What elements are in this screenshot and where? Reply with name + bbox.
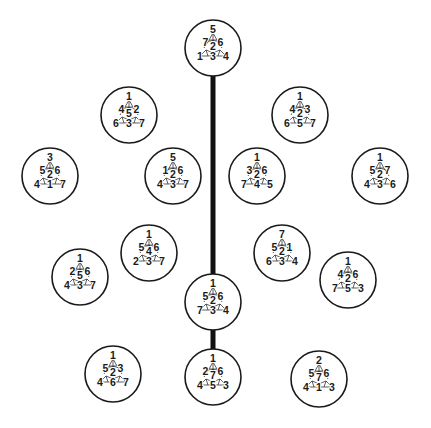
- label-top: 1: [210, 277, 216, 289]
- label-top: 1: [126, 90, 132, 102]
- label-bottom-center: 3: [170, 178, 176, 190]
- label-bottom-left: 4: [303, 381, 309, 393]
- label-mid-left: 4: [290, 103, 296, 115]
- label-mid-right: 6: [178, 164, 184, 176]
- label-mid-right: 6: [55, 164, 61, 176]
- label-top: 3: [47, 151, 53, 163]
- label-bottom-right: 7: [123, 376, 129, 388]
- label-bottom-center: 3: [146, 255, 152, 267]
- label-bottom-right: 4: [223, 50, 229, 62]
- label-mid-right: 2: [134, 103, 140, 115]
- label-bottom-center: 3: [210, 304, 216, 316]
- label-bottom-left: 4: [157, 178, 163, 190]
- label-mid-right: 6: [218, 365, 224, 377]
- fano-node: 3562417: [22, 148, 78, 204]
- label-bottom-center: 4: [254, 178, 260, 190]
- label-mid-right: 6: [154, 241, 160, 253]
- label-bottom-left: 7: [332, 282, 338, 294]
- label-bottom-right: 7: [183, 178, 189, 190]
- label-mid-right: 6: [218, 290, 224, 302]
- label-top: 1: [210, 352, 216, 364]
- label-bottom-right: 7: [310, 117, 316, 129]
- label-mid-right: 1: [287, 241, 293, 253]
- label-mid-left: 7: [203, 36, 209, 48]
- label-bottom-left: 4: [364, 178, 370, 190]
- label-top: 1: [297, 90, 303, 102]
- label-mid-left: 4: [338, 268, 344, 280]
- label-top: 1: [77, 252, 83, 264]
- label-bottom-center: 3: [210, 50, 216, 62]
- fano-node: 1462753: [320, 252, 376, 308]
- fano-diagram-canvas: 5762134142563714326573562417516243713627…: [0, 0, 431, 428]
- fano-node: 7512634: [254, 225, 310, 281]
- fano-node: 1572436: [352, 148, 408, 204]
- label-bottom-left: 4: [197, 379, 203, 391]
- label-mid-right: 6: [262, 164, 268, 176]
- label-bottom-right: 6: [390, 178, 396, 190]
- label-top: 1: [254, 151, 260, 163]
- label-bottom-right: 7: [90, 279, 96, 291]
- fano-node: 1432657: [272, 87, 328, 143]
- label-top: 2: [316, 354, 322, 366]
- label-bottom-center: 3: [77, 279, 83, 291]
- label-bottom-center: 3: [377, 178, 383, 190]
- label-bottom-left: 6: [266, 255, 272, 267]
- label-bottom-center: 5: [297, 117, 303, 129]
- connector-line: [211, 330, 216, 349]
- label-mid-left: 5: [203, 290, 209, 302]
- fano-node: 2567413: [291, 351, 347, 407]
- label-mid-left: 5: [370, 164, 376, 176]
- label-bottom-right: 4: [292, 255, 298, 267]
- label-mid-right: 6: [218, 36, 224, 48]
- label-bottom-left: 4: [34, 178, 40, 190]
- label-mid-left: 2: [70, 265, 76, 277]
- fano-node: 1564237: [121, 225, 177, 281]
- label-bottom-right: 3: [358, 282, 364, 294]
- label-mid-left: 5: [309, 367, 315, 379]
- connector-line: [211, 76, 216, 274]
- label-bottom-left: 1: [197, 50, 203, 62]
- label-mid-right: 6: [85, 265, 91, 277]
- fano-node: 1425637: [101, 87, 157, 143]
- label-top: 7: [279, 228, 285, 240]
- label-top: 1: [377, 151, 383, 163]
- fano-node: 1265437: [52, 249, 108, 305]
- label-bottom-left: 6: [113, 117, 119, 129]
- label-bottom-right: 7: [159, 255, 165, 267]
- label-mid-right: 3: [118, 362, 124, 374]
- label-bottom-right: 4: [223, 304, 229, 316]
- label-top: 1: [146, 228, 152, 240]
- label-mid-left: 2: [203, 365, 209, 377]
- fano-node: 5162437: [145, 148, 201, 204]
- label-bottom-left: 6: [284, 117, 290, 129]
- label-top: 5: [170, 151, 176, 163]
- fano-node: 1362745: [229, 148, 285, 204]
- label-top: 1: [110, 349, 116, 361]
- label-bottom-center: 6: [110, 376, 116, 388]
- fano-node: 1562734: [185, 274, 241, 330]
- label-bottom-center: 5: [210, 379, 216, 391]
- label-bottom-left: 7: [241, 178, 247, 190]
- label-bottom-right: 3: [223, 379, 229, 391]
- label-bottom-center: 1: [316, 381, 322, 393]
- label-bottom-center: 1: [47, 178, 53, 190]
- label-mid-right: 3: [305, 103, 311, 115]
- label-bottom-right: 5: [267, 178, 273, 190]
- label-mid-left: 1: [163, 164, 169, 176]
- label-bottom-left: 4: [97, 376, 103, 388]
- label-mid-left: 5: [103, 362, 109, 374]
- fano-node: 1267453: [185, 349, 241, 405]
- label-mid-left: 5: [139, 241, 145, 253]
- label-top: 5: [210, 23, 216, 35]
- label-mid-right: 6: [353, 268, 359, 280]
- label-bottom-center: 5: [345, 282, 351, 294]
- label-bottom-center: 3: [126, 117, 132, 129]
- label-bottom-left: 4: [64, 279, 70, 291]
- fano-node: 5762134: [185, 20, 241, 76]
- label-bottom-left: 2: [133, 255, 139, 267]
- fano-node: 1532467: [85, 346, 141, 402]
- label-mid-left: 4: [119, 103, 125, 115]
- label-mid-left: 5: [40, 164, 46, 176]
- label-mid-right: 6: [324, 367, 330, 379]
- label-top: 1: [345, 255, 351, 267]
